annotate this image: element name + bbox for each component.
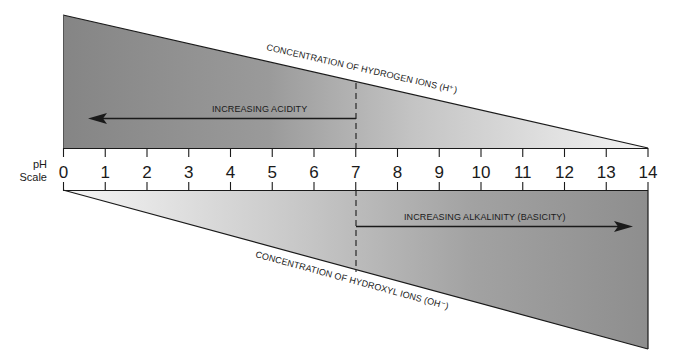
scale-label: Scale	[19, 171, 47, 183]
ph-scale-diagram: 01234567891011121314 pH Scale INCREASING…	[0, 0, 673, 363]
ph-label: pH	[33, 158, 47, 170]
tick-label: 14	[639, 163, 658, 182]
scale-tick-labels: 01234567891011121314	[59, 163, 658, 182]
tick-label: 9	[435, 163, 444, 182]
tick-label: 8	[393, 163, 402, 182]
tick-label: 5	[268, 163, 277, 182]
tick-label: 4	[226, 163, 235, 182]
tick-label: 3	[184, 163, 193, 182]
tick-label: 2	[142, 163, 151, 182]
tick-label: 0	[59, 163, 68, 182]
acidity-label: INCREASING ACIDITY	[212, 104, 307, 114]
tick-label: 11	[514, 163, 532, 182]
tick-label: 6	[309, 163, 318, 182]
alkalinity-label: INCREASING ALKALINITY (BASICITY)	[404, 212, 566, 222]
tick-label: 10	[472, 163, 491, 182]
tick-label: 13	[597, 163, 616, 182]
tick-label: 1	[101, 163, 110, 182]
tick-label: 7	[351, 163, 360, 182]
tick-label: 12	[555, 163, 574, 182]
